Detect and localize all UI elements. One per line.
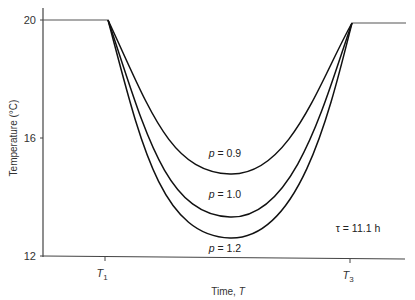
xtick-label-t3: T3 [342, 269, 354, 284]
y-axis-label: Temperature (°C) [8, 100, 19, 177]
curve-label-1.2: p = 1.2 [208, 242, 242, 254]
temperature-chart: 20 16 12 T1 T3 Time, T Temperature (°C) … [0, 0, 415, 300]
ytick-label-20: 20 [24, 14, 36, 26]
x-axis-label: Time, T [211, 286, 245, 297]
x-axis [43, 256, 405, 259]
xtick-label-t1: T1 [96, 267, 108, 282]
ytick-label-16: 16 [24, 132, 36, 144]
curve-label-1.0: p = 1.0 [208, 188, 242, 200]
ytick-label-12: 12 [24, 250, 36, 262]
tau-annotation: τ = 11.1 h [336, 222, 381, 234]
curve-label-0.9: p = 0.9 [208, 147, 242, 159]
